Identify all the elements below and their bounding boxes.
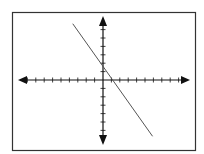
coordinate-plane bbox=[0, 0, 204, 154]
graph-frame bbox=[13, 13, 196, 151]
